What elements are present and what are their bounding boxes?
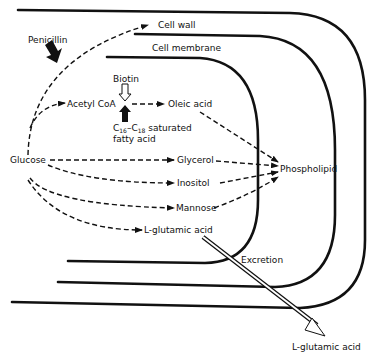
- pathway-diagram: Cell wall Cell membrane Penicillin Bioti…: [0, 0, 374, 354]
- path-glycerol-phospholipid: [216, 161, 278, 166]
- saturated-fatty-acid-arrow-icon: [119, 105, 131, 122]
- path-inositol-phospholipid: [220, 172, 278, 183]
- path-glucose-glutamic: [28, 180, 142, 230]
- label-glucose: Glucose: [10, 155, 46, 165]
- label-glutamic-outer: L-glutamic acid: [292, 342, 361, 352]
- label-glutamic-inner: L-glutamic acid: [144, 225, 213, 235]
- label-mannose: Mannose: [176, 203, 217, 213]
- biotin-arrow-icon: [119, 84, 131, 101]
- label-oleic-acid: Oleic acid: [168, 99, 212, 109]
- label-cell-membrane: Cell membrane: [152, 43, 221, 53]
- label-inositol: Inositol: [177, 178, 210, 188]
- label-fatty-acid: fatty acid: [113, 134, 156, 144]
- label-excretion: Excretion: [241, 255, 283, 265]
- label-acetyl-coa: Acetyl CoA: [67, 99, 116, 109]
- label-saturated-fatty-acid: C16–C18 saturated: [113, 123, 192, 134]
- label-glycerol: Glycerol: [177, 155, 214, 165]
- path-glucose-inositol: [48, 165, 174, 183]
- label-penicillin: Penicillin: [28, 35, 68, 45]
- label-phospholipid: Phospholipid: [280, 164, 337, 174]
- label-biotin: Biotin: [113, 74, 139, 84]
- label-cell-wall: Cell wall: [158, 20, 196, 30]
